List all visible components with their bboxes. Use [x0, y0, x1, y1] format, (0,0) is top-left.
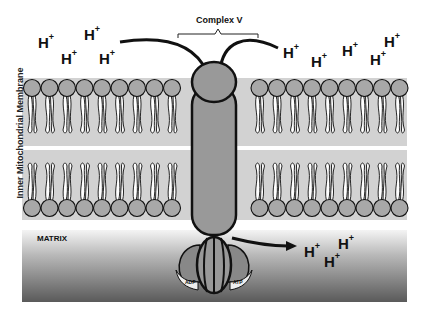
lipid-head — [146, 200, 163, 217]
lipid-head — [41, 80, 58, 97]
proton-label: H+ — [283, 44, 299, 61]
lipid-head — [129, 200, 146, 217]
lipid-head — [304, 80, 321, 97]
lipid-head — [391, 80, 408, 97]
lipid-head — [286, 80, 303, 97]
lipid-head — [94, 80, 111, 97]
lipid-head — [269, 80, 286, 97]
proton-label: H+ — [38, 34, 54, 51]
proton-label: H+ — [338, 235, 354, 252]
lipid-head — [111, 80, 128, 97]
lipid-head — [41, 200, 58, 217]
complex-bracket — [178, 29, 258, 38]
proton-label: H+ — [304, 243, 320, 260]
lipid-head — [339, 80, 356, 97]
proton-label: H+ — [324, 253, 340, 270]
lipid-head — [24, 80, 41, 97]
lipid-head — [59, 80, 76, 97]
lipid-head — [129, 80, 146, 97]
matrix-label: MATRIX — [37, 234, 67, 243]
proton-label: H+ — [84, 26, 100, 43]
lipid-head — [374, 80, 391, 97]
lipid-head — [76, 200, 93, 217]
lipid-head — [374, 200, 391, 217]
f0-head — [192, 62, 236, 102]
lipid-head — [269, 200, 286, 217]
atp-label: ATP — [233, 279, 243, 285]
lipid-head — [59, 200, 76, 217]
lipid-head — [164, 200, 181, 217]
proton-label: H+ — [384, 33, 400, 50]
proton-label: H+ — [99, 50, 115, 67]
lipid-head — [146, 80, 163, 97]
lipid-head — [321, 200, 338, 217]
proton-path-left — [120, 40, 207, 72]
proton-label: H+ — [342, 42, 358, 59]
complex-v-label: Complex V — [196, 15, 243, 25]
lipid-head — [251, 200, 268, 217]
lipid-head — [111, 200, 128, 217]
proton-label: H+ — [311, 53, 327, 70]
lipid-head — [24, 200, 41, 217]
diagram-canvas — [0, 0, 427, 311]
lipid-head — [304, 200, 321, 217]
lipid-head — [356, 80, 373, 97]
lipid-head — [286, 200, 303, 217]
lipid-head — [94, 200, 111, 217]
adp-label: ADP — [185, 279, 196, 285]
proton-label: H+ — [370, 51, 386, 68]
proton-label: H+ — [61, 50, 77, 67]
lipid-head — [321, 80, 338, 97]
lipid-head — [164, 80, 181, 97]
lipid-head — [339, 200, 356, 217]
lipid-head — [251, 80, 268, 97]
membrane-label: Inner Mitochondrial Membrane — [15, 58, 25, 208]
lipid-head — [391, 200, 408, 217]
stalk — [192, 85, 236, 235]
lipid-head — [76, 80, 93, 97]
lipid-head — [356, 200, 373, 217]
